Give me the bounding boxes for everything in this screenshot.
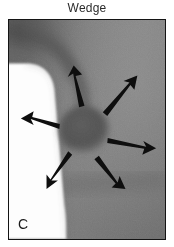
radiograph-svg [9, 20, 165, 239]
film-grain-overlay [9, 20, 165, 239]
panel-label: C [18, 217, 28, 231]
figure-panel: Wedge [0, 0, 174, 247]
radiograph-image: C [9, 20, 165, 239]
figure-title: Wedge [0, 1, 174, 16]
radiograph-frame: C [8, 19, 166, 240]
